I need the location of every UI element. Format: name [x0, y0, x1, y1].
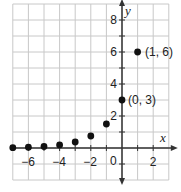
x-axis-label: x — [159, 130, 166, 145]
y-tick-label: 6 — [110, 45, 117, 59]
y-tick-label: 8 — [110, 13, 117, 27]
data-point — [56, 142, 63, 149]
x-tick-label: −2 — [83, 155, 97, 169]
origin-label: 0 — [110, 154, 117, 168]
data-point — [103, 121, 110, 128]
data-point — [87, 133, 94, 140]
chart-svg: y x 0 −6 −4 −2 2 2 4 6 8 (0, 3) (1, 6) — [0, 0, 181, 192]
point-label-0-3: (0, 3) — [128, 93, 156, 107]
x-tick-label: −4 — [52, 155, 66, 169]
y-tick-label: 2 — [110, 109, 117, 123]
data-point — [134, 49, 141, 56]
data-point — [41, 143, 48, 150]
data-point — [9, 144, 16, 151]
data-point — [72, 139, 79, 146]
y-axis-label: y — [123, 3, 131, 18]
data-point — [119, 97, 126, 104]
x-tick-label: 2 — [150, 155, 157, 169]
data-point — [25, 144, 32, 151]
x-tick-label: −6 — [21, 155, 35, 169]
y-tick-label: 4 — [110, 77, 117, 91]
grid — [13, 4, 169, 180]
point-label-1-6: (1, 6) — [145, 45, 173, 59]
